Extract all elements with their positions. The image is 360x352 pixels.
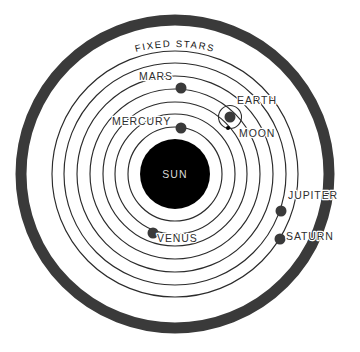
mars-label: MARS <box>139 70 173 82</box>
earth-label: EARTH <box>237 94 277 106</box>
sun-label: SUN <box>162 168 187 180</box>
saturn-label: SATURN <box>286 230 334 242</box>
moon-dot <box>226 126 230 130</box>
venus-label: VENUS <box>157 232 198 244</box>
saturn-dot <box>275 234 286 245</box>
moon-label: MOON <box>239 127 275 139</box>
earth-dot <box>225 112 236 123</box>
heliocentric-diagram: SUN MARS MERCURY EARTH MOON VENUS JUPITE… <box>0 0 360 352</box>
mercury-dot <box>176 123 187 134</box>
jupiter-dot <box>276 206 287 217</box>
solar-system-svg: SUN MARS MERCURY EARTH MOON VENUS JUPITE… <box>0 0 360 352</box>
jupiter-label: JUPITER <box>288 189 338 201</box>
mars-dot <box>176 83 187 94</box>
mercury-label: MERCURY <box>112 115 171 127</box>
